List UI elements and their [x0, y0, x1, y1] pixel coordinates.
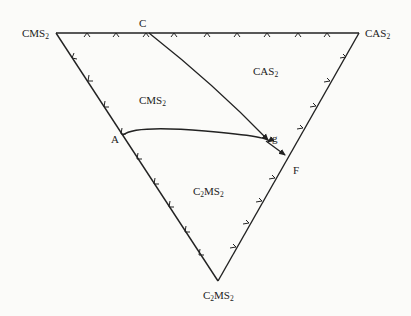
vertex-label-cms2: CMS2 — [22, 28, 49, 41]
field-label-cas2: CAS2 — [253, 66, 278, 79]
vertex-label-c2ms2: C2MS2 — [203, 290, 234, 303]
field-label-c2ms2: C2MS2 — [193, 186, 224, 199]
point-label-g: g — [272, 133, 278, 144]
point-label-c: C — [139, 18, 146, 29]
point-label-f: F — [293, 165, 299, 176]
vertex-label-cas2: CAS2 — [365, 28, 390, 41]
phase-diagram-canvas — [0, 0, 411, 316]
right-edge-ticks — [230, 54, 346, 248]
left-edge-ticks — [72, 53, 204, 255]
point-label-a: A — [111, 134, 119, 145]
field-label-cms2: CMS2 — [139, 95, 166, 108]
boundary-curve-a-to-g — [123, 129, 269, 142]
boundary-curve-c-to-g — [149, 33, 268, 140]
triangle-outline — [56, 33, 359, 281]
